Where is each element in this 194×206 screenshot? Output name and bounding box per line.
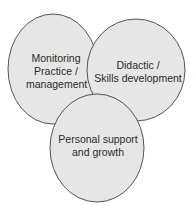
label-personal-support-growth: Personal support and growth — [55, 133, 141, 159]
label-line: Practice / — [26, 65, 86, 78]
label-line: management — [26, 78, 86, 91]
label-monitoring-practice-management: Monitoring Practice / management — [26, 52, 86, 91]
label-line: Monitoring — [26, 52, 86, 65]
venn-diagram — [0, 0, 194, 206]
label-line: Didactic / — [92, 59, 184, 72]
label-didactic-skills-development: Didactic / Skills development — [92, 59, 184, 85]
label-line: Personal support — [55, 133, 141, 146]
label-line: and growth — [55, 146, 141, 159]
label-line: Skills development — [92, 72, 184, 85]
